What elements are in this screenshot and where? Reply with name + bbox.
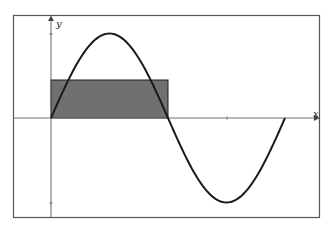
y-axis-arrow-icon [48,16,54,22]
shaded-rectangle [51,80,168,118]
y-axis-label: y [55,18,62,29]
x-axis-label: x [313,108,319,119]
sine-area-diagram: y x [0,0,334,232]
